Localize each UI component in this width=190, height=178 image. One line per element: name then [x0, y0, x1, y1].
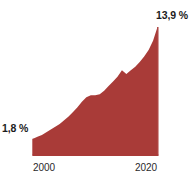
- x-axis-tick-2000: 2000: [33, 163, 55, 173]
- area-chart: 13,9 % 1,8 % 2000 2020: [0, 0, 190, 178]
- start-value-annotation: 1,8 %: [2, 123, 28, 134]
- x-axis-tick-2020: 2020: [135, 163, 157, 173]
- area-series-fill: [33, 27, 158, 155]
- end-value-annotation: 13,9 %: [156, 10, 188, 21]
- chart-plot-area: [0, 0, 190, 178]
